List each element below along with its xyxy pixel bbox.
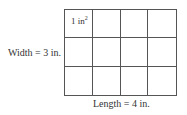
grid-cell xyxy=(65,67,93,95)
grid-cell xyxy=(148,67,176,95)
grid-cell xyxy=(121,10,149,38)
grid-cell xyxy=(65,38,93,66)
grid-cell xyxy=(93,67,121,95)
grid-cell: 1 in2 xyxy=(65,10,93,38)
grid-cell xyxy=(121,38,149,66)
area-grid: 1 in2 xyxy=(64,9,177,96)
grid-cell xyxy=(148,10,176,38)
grid-cell xyxy=(93,38,121,66)
grid-cell xyxy=(93,10,121,38)
width-label: Width = 3 in. xyxy=(8,47,61,58)
grid-cell xyxy=(121,67,149,95)
grid-cell xyxy=(148,38,176,66)
unit-square-label: 1 in2 xyxy=(71,15,88,26)
length-label: Length = 4 in. xyxy=(93,98,150,109)
